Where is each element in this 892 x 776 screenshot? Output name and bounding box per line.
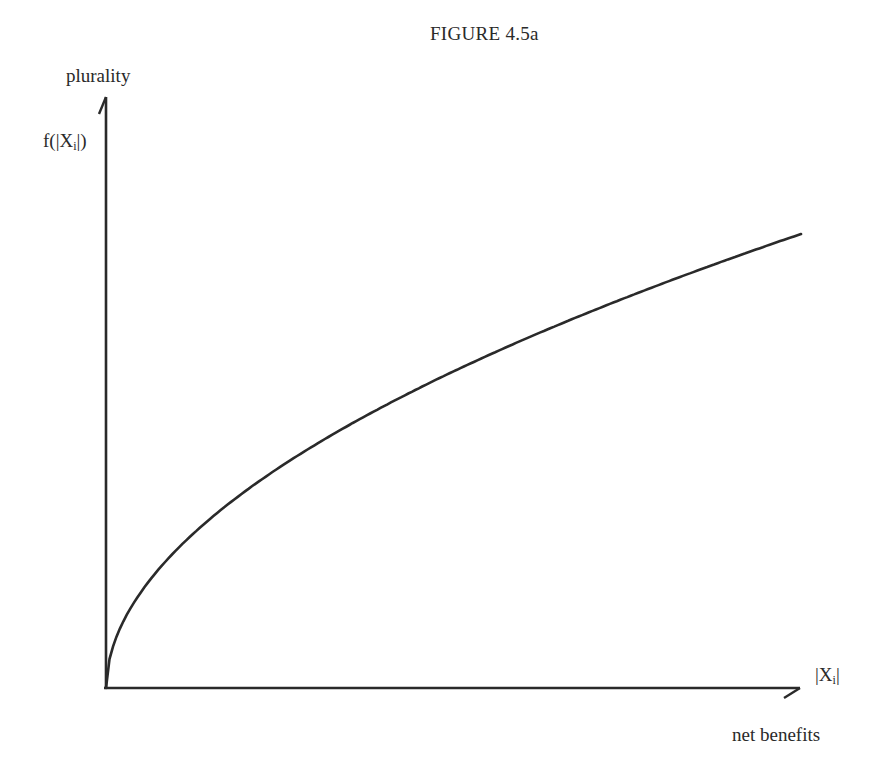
function-curve xyxy=(106,234,801,688)
chart-canvas xyxy=(0,0,892,776)
x-axis-arrowhead-icon xyxy=(784,688,800,698)
